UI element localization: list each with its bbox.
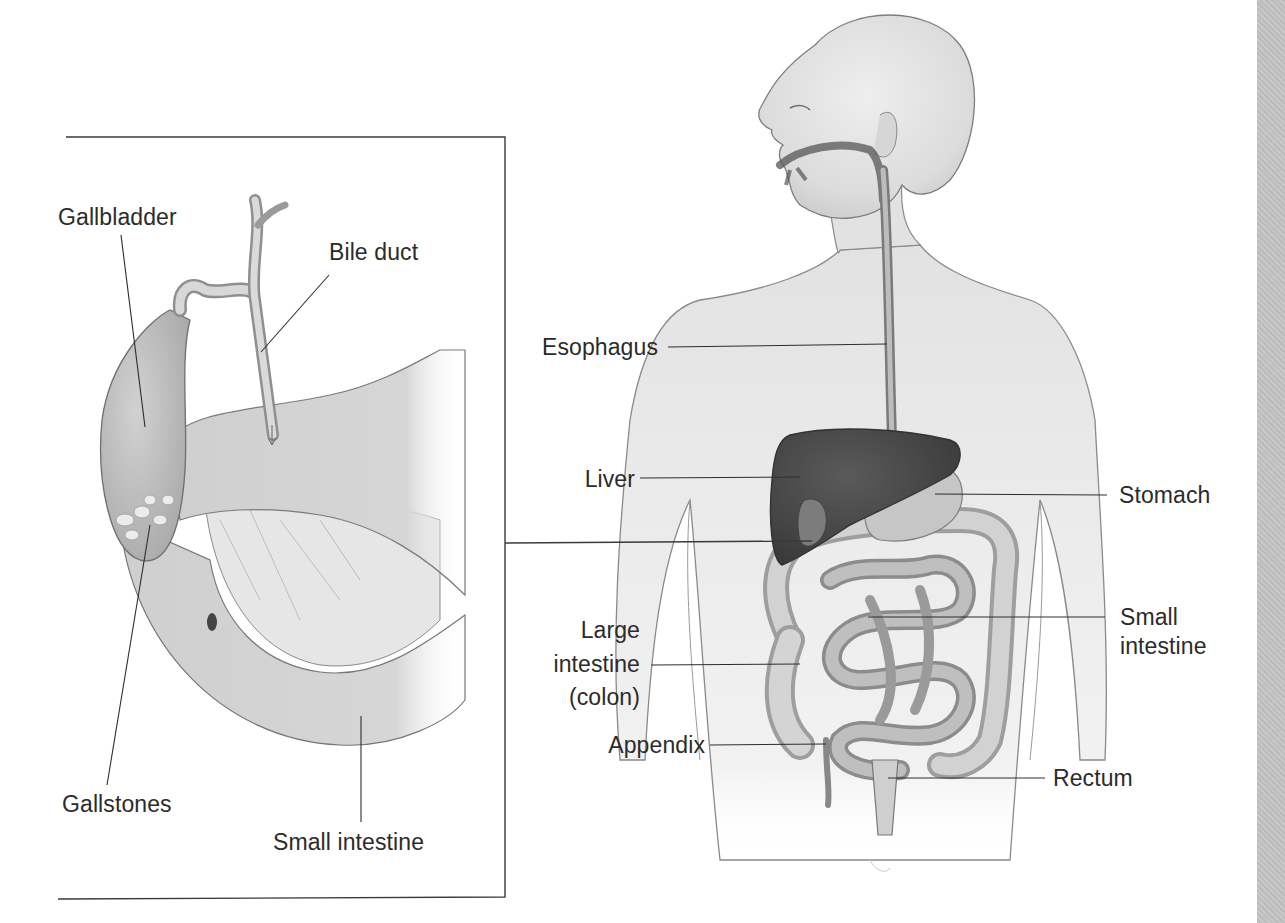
- gallbladder-shape: [101, 310, 190, 561]
- label-large-intestine-line2: intestine: [520, 650, 640, 679]
- label-gallbladder: Gallbladder: [58, 203, 177, 232]
- label-rectum: Rectum: [1053, 764, 1133, 793]
- label-small-intestine-line1: Small: [1120, 603, 1178, 632]
- inset-illustration: [101, 200, 465, 745]
- label-gallstones: Gallstones: [62, 790, 172, 819]
- anatomy-diagram: Gallbladder Bile duct Gallstones Small i…: [0, 0, 1285, 923]
- label-small-intestine-inset: Small intestine: [273, 828, 424, 857]
- label-esophagus: Esophagus: [523, 333, 658, 362]
- label-appendix: Appendix: [570, 731, 705, 760]
- label-stomach: Stomach: [1119, 481, 1210, 510]
- label-small-intestine-line2: intestine: [1120, 632, 1207, 661]
- label-large-intestine-line3: (colon): [540, 683, 640, 712]
- label-liver: Liver: [560, 465, 635, 494]
- head-shape: [759, 15, 975, 218]
- side-strip: [1257, 0, 1285, 923]
- label-large-intestine-line1: Large: [540, 616, 640, 645]
- label-bile-duct: Bile duct: [329, 238, 418, 267]
